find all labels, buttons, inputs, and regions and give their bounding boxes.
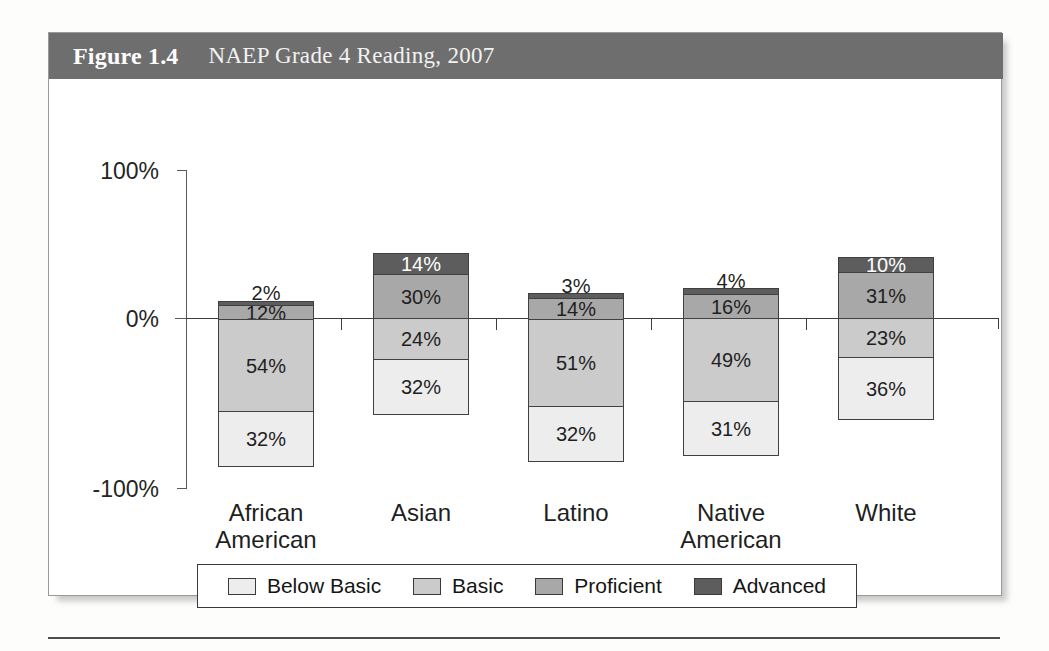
- y-axis-label-negative-100: -100%: [49, 476, 159, 503]
- segment-label-basic: 54%: [246, 356, 286, 376]
- category-label-line1: Native: [641, 499, 821, 526]
- bar-group-african-american[interactable]: 2% 12% 54% 32% African American: [186, 79, 346, 597]
- segment-below-basic[interactable]: 32%: [219, 412, 313, 466]
- legend-item-advanced[interactable]: Advanced: [694, 574, 826, 598]
- segment-label-basic: 49%: [711, 350, 751, 370]
- category-label-latino: Latino: [486, 499, 666, 526]
- legend-label-proficient: Proficient: [574, 574, 662, 598]
- bar-group-white[interactable]: 10% 31% 23% 36% White: [806, 79, 966, 597]
- segment-label-below-basic: 32%: [556, 424, 596, 444]
- segment-advanced[interactable]: 14%: [374, 254, 468, 275]
- category-label-white: White: [796, 499, 976, 526]
- legend-label-advanced: Advanced: [733, 574, 826, 598]
- figure-title-text: NAEP Grade 4 Reading, 2007: [209, 43, 495, 69]
- segment-proficient[interactable]: 30%: [374, 275, 468, 319]
- y-axis-label-0: 0%: [49, 306, 159, 333]
- bar-group-native-american[interactable]: 4% 16% 49% 31% Native American: [651, 79, 811, 597]
- legend-swatch-basic: [413, 578, 441, 595]
- segment-label-below-basic: 31%: [711, 419, 751, 439]
- x-axis-end-tick: [998, 318, 999, 329]
- figure-container: Figure 1.4 NAEP Grade 4 Reading, 2007 10…: [48, 32, 1002, 596]
- segment-label-basic: 23%: [866, 328, 906, 348]
- segment-basic[interactable]: 23%: [839, 319, 933, 358]
- segment-below-basic[interactable]: 32%: [374, 360, 468, 414]
- stacked-bar[interactable]: 12% 54% 32%: [218, 301, 314, 467]
- category-label-african-american: African American: [176, 499, 356, 553]
- segment-basic[interactable]: 51%: [529, 320, 623, 407]
- category-label-line2: American: [641, 526, 821, 553]
- stacked-bar[interactable]: 16% 49% 31%: [683, 288, 779, 456]
- segment-advanced[interactable]: 10%: [839, 258, 933, 273]
- segment-label-below-basic: 36%: [866, 379, 906, 399]
- chart-legend: Below Basic Basic Proficient Advanced: [197, 564, 857, 608]
- y-axis-label-100: 100%: [49, 158, 159, 185]
- segment-below-basic[interactable]: 31%: [684, 402, 778, 455]
- segment-basic[interactable]: 54%: [219, 320, 313, 412]
- segment-proficient[interactable]: 12%: [219, 306, 313, 320]
- stacked-bar[interactable]: 14% 51% 32%: [528, 293, 624, 462]
- segment-proficient[interactable]: 16%: [684, 295, 778, 319]
- segment-label-basic: 51%: [556, 353, 596, 373]
- stacked-bar[interactable]: 10% 31% 23% 36%: [838, 257, 934, 420]
- segment-proficient[interactable]: 14%: [529, 299, 623, 320]
- legend-label-basic: Basic: [452, 574, 503, 598]
- page-horizontal-rule: [48, 637, 1000, 639]
- category-label-line2: American: [176, 526, 356, 553]
- segment-label-proficient: 31%: [866, 286, 906, 306]
- segment-below-basic[interactable]: 32%: [529, 407, 623, 461]
- segment-label-proficient: 14%: [556, 299, 596, 319]
- segment-below-basic[interactable]: 36%: [839, 358, 933, 419]
- legend-item-proficient[interactable]: Proficient: [535, 574, 662, 598]
- category-label-native-american: Native American: [641, 499, 821, 553]
- segment-label-basic: 24%: [401, 329, 441, 349]
- chart-plot-area: 100% 0% -100% 2% 12% 54%: [49, 79, 1003, 597]
- category-label-line1: Latino: [486, 499, 666, 526]
- segment-label-proficient: 30%: [401, 287, 441, 307]
- category-label-line1: Asian: [331, 499, 511, 526]
- category-label-line1: White: [796, 499, 976, 526]
- legend-item-below-basic[interactable]: Below Basic: [228, 574, 381, 598]
- segment-proficient[interactable]: 31%: [839, 273, 933, 319]
- segment-label-below-basic: 32%: [246, 429, 286, 449]
- legend-item-basic[interactable]: Basic: [413, 574, 503, 598]
- segment-label-below-basic: 32%: [401, 377, 441, 397]
- segment-label-proficient: 16%: [711, 297, 751, 317]
- segment-label-proficient: 12%: [246, 306, 286, 320]
- bar-group-latino[interactable]: 3% 14% 51% 32% Latino: [496, 79, 656, 597]
- page-background: Figure 1.4 NAEP Grade 4 Reading, 2007 10…: [0, 0, 1049, 651]
- stacked-bar[interactable]: 14% 30% 24% 32%: [373, 253, 469, 415]
- segment-basic[interactable]: 24%: [374, 319, 468, 360]
- segment-label-advanced: 14%: [401, 254, 441, 274]
- legend-swatch-below-basic: [228, 578, 256, 595]
- category-label-line1: African: [176, 499, 356, 526]
- figure-title-bar: Figure 1.4 NAEP Grade 4 Reading, 2007: [49, 33, 1003, 79]
- legend-label-below-basic: Below Basic: [267, 574, 381, 598]
- category-label-asian: Asian: [331, 499, 511, 526]
- segment-basic[interactable]: 49%: [684, 319, 778, 402]
- bar-group-asian[interactable]: 14% 30% 24% 32% Asian: [341, 79, 501, 597]
- figure-number-label: Figure 1.4: [73, 43, 179, 70]
- legend-swatch-advanced: [694, 578, 722, 595]
- legend-swatch-proficient: [535, 578, 563, 595]
- segment-label-advanced: 10%: [866, 258, 906, 273]
